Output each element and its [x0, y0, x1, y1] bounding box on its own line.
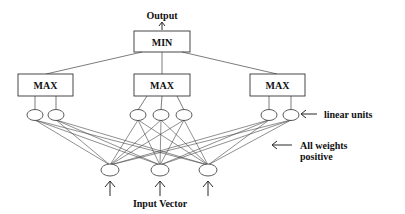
min-label: MIN	[152, 37, 173, 48]
linear-unit	[27, 110, 43, 121]
linear-unit	[130, 110, 146, 121]
weights-label-line2: positive	[300, 151, 333, 162]
input-arrow-icons	[105, 181, 213, 196]
weights-arrow-icon	[272, 141, 292, 149]
max-label: MAX	[150, 80, 175, 91]
input-node	[101, 164, 119, 176]
linear-unit	[261, 110, 277, 121]
max-label: MAX	[34, 80, 59, 91]
input-node	[151, 164, 169, 176]
minmax-network-diagram: Output MIN MAX MAX MAX	[0, 0, 405, 214]
linear-units-label: linear units	[324, 109, 373, 120]
weight-connections	[35, 120, 291, 165]
max-node-2: MAX	[134, 74, 190, 96]
linear-units-arrow-icon	[301, 110, 317, 118]
max-node-3: MAX	[250, 74, 305, 96]
linear-units	[27, 110, 299, 121]
min-node: MIN	[134, 31, 190, 52]
linear-unit	[283, 110, 299, 121]
linear-unit	[176, 110, 192, 121]
input-nodes	[101, 164, 217, 176]
linear-unit	[48, 110, 64, 121]
input-vector-label: Input Vector	[133, 198, 188, 209]
min-max-connections	[46, 52, 277, 74]
output-label: Output	[146, 10, 178, 21]
max-label: MAX	[266, 80, 291, 91]
max-node-1: MAX	[18, 74, 73, 96]
weights-label-line1: All weights	[300, 140, 348, 151]
max-linear-connections	[35, 96, 291, 110]
linear-unit	[153, 110, 169, 121]
output-arrow-icon	[159, 22, 165, 30]
input-node	[199, 164, 217, 176]
